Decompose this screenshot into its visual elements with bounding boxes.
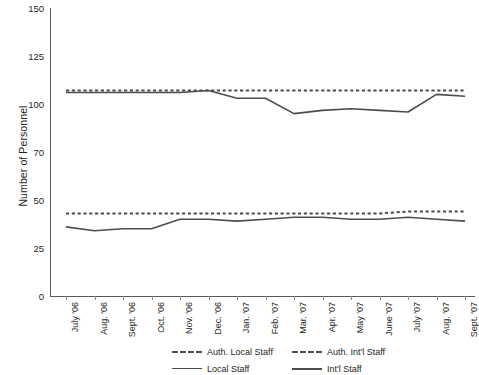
x-tick-mark: [123, 296, 124, 300]
x-tick-mark: [323, 296, 324, 300]
series-line-auth-int-l-staff: [66, 212, 465, 214]
x-tick-label: July '07: [412, 302, 422, 332]
x-tick-label: Sept. '06: [127, 302, 137, 337]
x-tick-label: Aug. '07: [441, 302, 451, 335]
legend-label: Auth. Local Staff: [207, 347, 273, 357]
x-tick-label: July '06: [70, 302, 80, 332]
x-tick-mark: [351, 296, 352, 300]
series-line-int-l-staff: [66, 217, 465, 230]
y-axis-tick-labels: 1501251007050250: [8, 0, 44, 310]
y-tick-25: 25: [8, 243, 44, 254]
series-line-local-staff: [66, 91, 465, 114]
legend-item-int-l-staff[interactable]: Int'l Staff: [292, 363, 362, 374]
x-tick-mark: [294, 296, 295, 300]
series-layer: [66, 91, 465, 231]
legend-swatch-icon: [292, 368, 322, 370]
x-tick-mark: [95, 296, 96, 300]
x-tick-label: Nov. '06: [184, 302, 194, 334]
x-tick-label: May '07: [355, 302, 365, 333]
legend-item-auth-local-staff[interactable]: Auth. Local Staff: [172, 346, 273, 357]
x-axis-line: [50, 296, 475, 297]
legend-label: Int'l Staff: [327, 364, 362, 374]
x-tick-label: Oct. '06: [156, 302, 166, 333]
x-tick-mark: [152, 296, 153, 300]
y-tick-100: 100: [8, 99, 44, 110]
x-tick-label: Apr. '07: [327, 302, 337, 332]
x-tick-label: Aug. '06: [99, 302, 109, 335]
y-tick-0: 0: [8, 291, 44, 302]
x-tick-mark: [266, 296, 267, 300]
x-tick-label: Jan. '07: [241, 302, 251, 333]
legend-swatch-icon: [172, 351, 202, 353]
y-tick-150: 150: [8, 3, 44, 14]
x-tick-mark: [465, 296, 466, 300]
personnel-line-chart: Number of Personnel 1501251007050250 Jul…: [0, 0, 479, 375]
x-tick-mark: [209, 296, 210, 300]
y-tick-50: 50: [8, 195, 44, 206]
x-tick-label: Mar. '07: [298, 302, 308, 334]
legend-label: Local Staff: [207, 364, 249, 374]
x-tick-mark: [380, 296, 381, 300]
x-tick-label: Dec. '06: [213, 302, 223, 335]
legend-swatch-icon: [292, 351, 322, 353]
x-tick-label: Feb. '07: [270, 302, 280, 334]
x-tick-label: Sept. '07: [469, 302, 479, 337]
x-tick-label: June '07: [384, 302, 394, 336]
chart-legend: Auth. Local StaffAuth. Int'l StaffLocal …: [0, 344, 479, 375]
x-tick-mark: [66, 296, 67, 300]
legend-swatch-icon: [172, 368, 202, 369]
x-tick-mark: [180, 296, 181, 300]
x-tick-mark: [408, 296, 409, 300]
legend-label: Auth. Int'l Staff: [327, 347, 385, 357]
y-tick-125: 125: [8, 51, 44, 62]
legend-item-local-staff[interactable]: Local Staff: [172, 363, 249, 374]
plot-area: [50, 8, 475, 296]
x-tick-mark: [237, 296, 238, 300]
y-tick-70: 70: [8, 147, 44, 158]
legend-item-auth-int-l-staff[interactable]: Auth. Int'l Staff: [292, 346, 385, 357]
x-tick-mark: [437, 296, 438, 300]
